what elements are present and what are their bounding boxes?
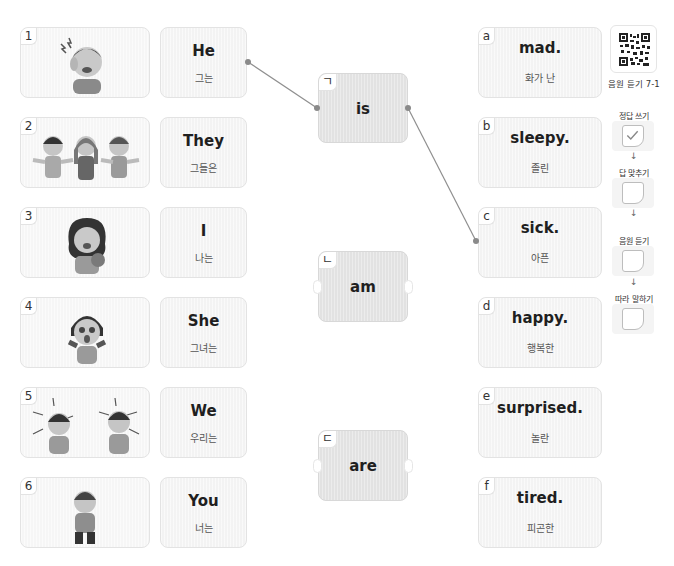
step-label-repeat-after: 따라 말하기 xyxy=(598,293,670,304)
subject-korean: 너는 xyxy=(161,520,246,535)
picture-card-6: 6 xyxy=(20,477,150,548)
sleepy-girl-illustration xyxy=(51,214,121,274)
verb-card-am[interactable]: ㄴ am xyxy=(318,251,408,322)
adjective-korean: 놀란 xyxy=(479,430,601,445)
adjective-card-tired[interactable]: f tired. 피곤한 xyxy=(478,477,602,548)
verb-word: is xyxy=(319,100,407,118)
picture-card-4: 4 xyxy=(20,297,150,368)
verb-word: are xyxy=(319,457,407,475)
line-he-is xyxy=(248,62,317,108)
subject-card-you[interactable]: You 너는 xyxy=(160,477,247,548)
subject-korean: 그들은 xyxy=(161,160,246,175)
connection-dot-he[interactable] xyxy=(245,59,251,65)
adjective-card-sick[interactable]: c sick. 아픈 xyxy=(478,207,602,278)
subject-korean: 나는 xyxy=(161,250,246,265)
connection-dot-is-right[interactable] xyxy=(405,105,411,111)
right-connector-handle[interactable] xyxy=(404,459,413,473)
subject-word: We xyxy=(161,402,246,420)
adjective-korean: 피곤한 xyxy=(479,520,601,535)
audio-label: 음원 듣기 7-1 xyxy=(598,77,670,89)
subject-card-she[interactable]: She 그녀는 xyxy=(160,297,247,368)
connection-dot-is-left[interactable] xyxy=(314,105,320,111)
adjective-korean: 아픈 xyxy=(479,250,601,265)
qr-code-icon xyxy=(619,33,650,66)
verb-card-is[interactable]: ㄱ is xyxy=(318,73,408,143)
step-label-write-answer: 정답 쓰기 xyxy=(598,110,670,121)
adjective-word: mad. xyxy=(479,39,601,57)
adjective-word: sleepy. xyxy=(479,129,601,147)
subject-card-i[interactable]: I 나는 xyxy=(160,207,247,278)
picture-number: 3 xyxy=(21,208,37,225)
step-checkbox-check-answer[interactable] xyxy=(622,182,644,204)
adjective-card-surprised[interactable]: e surprised. 놀란 xyxy=(478,387,602,458)
picture-card-1: 1 xyxy=(20,27,150,98)
angry-boys-illustration xyxy=(27,394,145,454)
picture-card-2: 2 xyxy=(20,117,150,188)
step-label-check-answer: 답 맞추기 xyxy=(598,167,670,178)
picture-number: 1 xyxy=(21,28,37,45)
verb-tag: ㄱ xyxy=(319,74,337,91)
adjective-word: tired. xyxy=(479,489,601,507)
adjective-korean: 화가 난 xyxy=(479,70,601,85)
subject-korean: 그는 xyxy=(161,70,246,85)
happy-children-illustration xyxy=(29,124,143,184)
adjective-card-mad[interactable]: a mad. 화가 난 xyxy=(478,27,602,98)
verb-card-are[interactable]: ㄷ are xyxy=(318,430,408,501)
adjective-word: sick. xyxy=(479,219,601,237)
left-connector-handle[interactable] xyxy=(313,280,322,294)
line-is-sick xyxy=(408,108,476,241)
step-checkbox-write-answer[interactable] xyxy=(622,125,644,147)
checkmark-icon xyxy=(623,126,642,145)
subject-korean: 그녀는 xyxy=(161,340,246,355)
subject-word: He xyxy=(161,42,246,60)
tired-boy-illustration xyxy=(51,484,121,544)
verb-word: am xyxy=(319,278,407,296)
adjective-word: happy. xyxy=(479,309,601,327)
picture-number: 6 xyxy=(21,478,37,495)
adjective-card-happy[interactable]: d happy. 행복한 xyxy=(478,297,602,368)
arrow-down-icon: ↓ xyxy=(630,278,636,287)
qr-code-audio[interactable] xyxy=(610,25,657,73)
verb-tag: ㄷ xyxy=(319,431,337,448)
subject-word: I xyxy=(161,222,246,240)
adjective-card-sleepy[interactable]: b sleepy. 졸린 xyxy=(478,117,602,188)
verb-tag: ㄴ xyxy=(319,252,337,269)
step-label-listen-audio: 음원 듣기 xyxy=(598,235,670,246)
picture-card-3: 3 xyxy=(20,207,150,278)
sick-boy-illustration xyxy=(51,34,121,94)
left-connector-handle[interactable] xyxy=(313,459,322,473)
subject-card-he[interactable]: He 그는 xyxy=(160,27,247,98)
subject-word: They xyxy=(161,132,246,150)
step-checkbox-repeat-after[interactable] xyxy=(622,308,644,330)
picture-number: 4 xyxy=(21,298,37,315)
picture-card-5: 5 xyxy=(20,387,150,458)
arrow-down-icon: ↓ xyxy=(630,209,636,218)
adjective-korean: 졸린 xyxy=(479,160,601,175)
arrow-down-icon: ↓ xyxy=(630,152,636,161)
adjective-word: surprised. xyxy=(479,399,601,417)
subject-word: You xyxy=(161,492,246,510)
step-checkbox-listen-audio[interactable] xyxy=(622,250,644,272)
surprised-girl-illustration xyxy=(51,304,121,364)
right-connector-handle[interactable] xyxy=(404,280,413,294)
adjective-korean: 행복한 xyxy=(479,340,601,355)
subject-card-we[interactable]: We 우리는 xyxy=(160,387,247,458)
connection-dot-sick[interactable] xyxy=(473,238,479,244)
subject-card-they[interactable]: They 그들은 xyxy=(160,117,247,188)
subject-word: She xyxy=(161,312,246,330)
subject-korean: 우리는 xyxy=(161,430,246,445)
